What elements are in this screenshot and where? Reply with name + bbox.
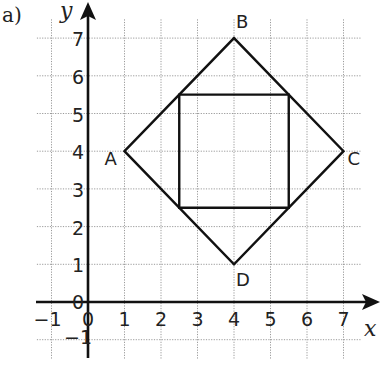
vertex-label-b: B xyxy=(236,11,248,32)
y-tick-label: 0 xyxy=(72,291,84,313)
x-tick-label: 7 xyxy=(338,308,350,330)
x-axis-label: x xyxy=(364,316,377,341)
vertex-label-d: D xyxy=(236,269,250,290)
y-tick-label: 4 xyxy=(72,141,84,163)
x-tick-label: 2 xyxy=(155,308,167,330)
y-tick-label: 2 xyxy=(72,217,84,239)
y-tick-label: 6 xyxy=(72,66,84,88)
x-tick-label: 3 xyxy=(192,308,204,330)
axes xyxy=(36,2,380,358)
y-tick-label: −1 xyxy=(64,326,92,348)
x-tick-label: 4 xyxy=(228,308,240,330)
x-tick-label: 1 xyxy=(119,308,131,330)
coordinate-diagram: −101234567−101234567 ABCD a) y x xyxy=(0,0,383,370)
y-tick-label: 5 xyxy=(72,104,84,126)
y-axis-label: y xyxy=(59,0,73,23)
part-label: a) xyxy=(2,3,22,27)
y-tick-label: 1 xyxy=(72,254,84,276)
vertex-label-a: A xyxy=(105,148,118,169)
x-tick-label: −1 xyxy=(34,308,62,330)
y-tick-label: 7 xyxy=(72,28,84,50)
x-tick-label: 5 xyxy=(265,308,277,330)
vertex-label-c: C xyxy=(348,148,361,169)
x-tick-label: 6 xyxy=(301,308,313,330)
y-tick-label: 3 xyxy=(72,179,84,201)
